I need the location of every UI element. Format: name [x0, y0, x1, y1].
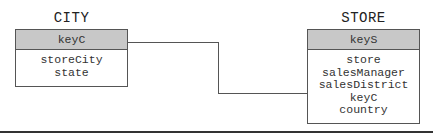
attribute: state — [16, 67, 127, 80]
bottom-divider — [0, 131, 433, 133]
entity-title-store: STORE — [307, 10, 420, 26]
entity-store-key: keyS — [308, 30, 419, 50]
entity-store: keyS store salesManager salesDistrict ke… — [307, 29, 420, 124]
attribute: storeCity — [16, 54, 127, 67]
entity-store-attributes: store salesManager salesDistrict keyC co… — [308, 50, 419, 117]
attribute: salesDistrict — [308, 79, 419, 92]
attribute: store — [308, 54, 419, 67]
connector-segment — [128, 42, 219, 43]
connector-segment — [218, 42, 219, 94]
entity-city: keyC storeCity state — [15, 29, 128, 87]
entity-title-city: CITY — [15, 10, 128, 26]
entity-city-key: keyC — [16, 30, 127, 50]
entity-city-attributes: storeCity state — [16, 50, 127, 79]
connector-segment — [218, 93, 307, 94]
attribute: country — [308, 104, 419, 117]
